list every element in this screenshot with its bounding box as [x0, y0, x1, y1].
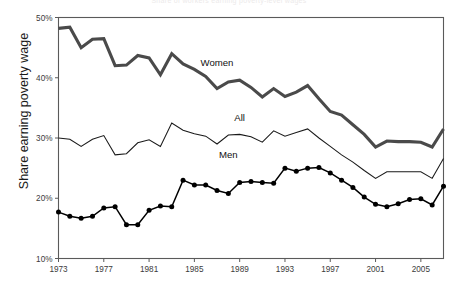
y-axis-ticks: 10%20%30%40%50%	[36, 14, 58, 264]
data-point-marker-men	[203, 183, 208, 188]
data-point-marker-men	[101, 205, 106, 210]
data-point-marker-men	[215, 188, 220, 193]
x-tick-label: 2001	[366, 265, 385, 274]
x-tick-label: 1997	[321, 265, 340, 274]
data-point-marker-men	[362, 195, 367, 200]
data-point-marker-men	[67, 214, 72, 219]
series-line-women	[59, 27, 444, 147]
data-point-marker-men	[249, 179, 254, 184]
data-point-marker-men	[135, 222, 140, 227]
data-point-marker-men	[181, 178, 186, 183]
data-point-marker-men	[418, 196, 423, 201]
data-point-marker-men	[124, 222, 129, 227]
series-annotation-women: Women	[201, 57, 234, 68]
y-tick-label: 50%	[36, 14, 52, 23]
data-point-marker-men	[430, 202, 435, 207]
data-point-marker-men	[147, 208, 152, 213]
data-point-marker-men	[56, 210, 61, 215]
data-point-marker-men	[79, 216, 84, 221]
series-annotation-all: All	[234, 112, 245, 123]
x-tick-label: 1989	[231, 265, 250, 274]
data-point-marker-men	[226, 191, 231, 196]
data-series-group	[56, 27, 446, 227]
data-point-marker-men	[407, 197, 412, 202]
data-point-marker-men	[90, 214, 95, 219]
y-tick-label: 10%	[36, 255, 52, 264]
data-point-marker-men	[373, 202, 378, 207]
data-point-marker-men	[158, 204, 163, 209]
chart-figure: Share of workers earning poverty-level w…	[0, 0, 458, 293]
data-point-marker-men	[305, 166, 310, 171]
data-point-marker-men	[441, 184, 446, 189]
data-point-marker-men	[328, 170, 333, 175]
x-tick-label: 1981	[140, 265, 159, 274]
y-tick-label: 40%	[36, 74, 52, 83]
plot-frame	[59, 18, 444, 259]
data-point-marker-men	[282, 166, 287, 171]
data-point-marker-men	[339, 178, 344, 183]
data-point-marker-men	[113, 204, 118, 209]
series-annotation-men: Men	[219, 149, 238, 160]
series-annotations: WomenAllMen	[201, 57, 245, 161]
y-tick-label: 30%	[36, 134, 52, 143]
x-axis-ticks: 197319771981198519891993199720012005	[49, 259, 430, 274]
data-point-marker-men	[260, 180, 265, 185]
data-point-marker-men	[384, 204, 389, 209]
data-point-marker-men	[350, 185, 355, 190]
data-point-marker-men	[396, 201, 401, 206]
series-line-men	[59, 168, 444, 225]
data-point-marker-men	[237, 180, 242, 185]
x-tick-label: 1973	[49, 265, 68, 274]
data-point-marker-men	[294, 169, 299, 174]
x-tick-label: 2005	[412, 265, 431, 274]
x-tick-label: 1993	[276, 265, 295, 274]
data-point-marker-men	[271, 181, 276, 186]
x-tick-label: 1985	[185, 265, 204, 274]
y-tick-label: 20%	[36, 194, 52, 203]
x-tick-label: 1977	[95, 265, 114, 274]
series-line-all	[59, 123, 444, 178]
data-point-marker-men	[192, 183, 197, 188]
chart-plot-area: 10%20%30%40%50% 197319771981198519891993…	[0, 0, 458, 293]
data-point-marker-men	[169, 204, 174, 209]
data-point-marker-men	[316, 165, 321, 170]
